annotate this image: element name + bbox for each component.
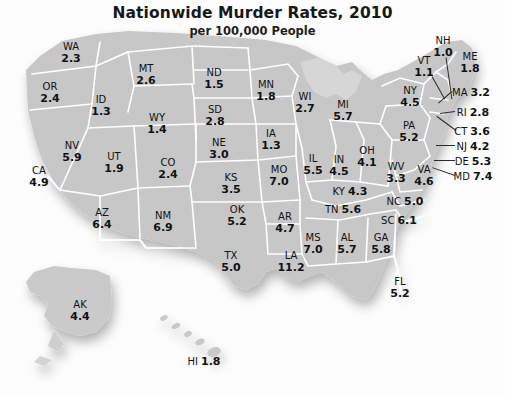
state-label-wy: WY1.4	[147, 112, 167, 135]
state-value-sd: 2.8	[205, 115, 225, 127]
state-label-tx: TX5.0	[221, 250, 241, 273]
state-abbr-sc: SC	[381, 215, 394, 226]
state-abbr-wi: WI	[295, 91, 315, 103]
state-value-mo: 7.0	[269, 175, 289, 187]
state-value-nv: 5.9	[62, 151, 82, 163]
state-abbr-in: IN	[329, 154, 349, 166]
state-abbr-id: ID	[91, 94, 111, 106]
state-abbr-ct: CT	[454, 126, 467, 137]
state-abbr-ky: KY	[333, 186, 345, 197]
state-abbr-wy: WY	[147, 112, 167, 124]
state-label-wa: WA2.3	[61, 41, 81, 64]
state-value-ks: 3.5	[221, 183, 241, 195]
state-value-wa: 2.3	[61, 52, 81, 64]
state-value-or: 2.4	[40, 92, 60, 104]
state-value-hi: 1.8	[201, 355, 221, 368]
state-value-tx: 5.0	[221, 261, 241, 273]
state-abbr-vt: VT	[414, 55, 434, 67]
state-abbr-oh: OH	[357, 145, 377, 157]
state-value-ny: 4.5	[400, 96, 420, 108]
state-label-ak: AK4.4	[70, 299, 90, 322]
state-value-ri: 2.8	[470, 106, 490, 119]
aleutian-islands	[34, 356, 52, 366]
state-abbr-ms: MS	[303, 232, 323, 244]
state-value-ok: 5.2	[227, 215, 247, 227]
title-block: Nationwide Murder Rates, 2010 per 100,00…	[0, 4, 505, 39]
state-abbr-or: OR	[40, 81, 60, 93]
state-value-mn: 1.8	[256, 90, 276, 102]
state-value-az: 6.4	[92, 218, 112, 230]
state-abbr-ia: IA	[261, 128, 281, 140]
state-value-nm: 6.9	[153, 221, 173, 233]
state-value-la: 11.2	[277, 261, 304, 273]
state-abbr-ut: UT	[104, 151, 124, 163]
state-value-pa: 5.2	[399, 131, 419, 143]
state-value-nd: 1.5	[204, 78, 224, 90]
state-abbr-me: ME	[460, 51, 480, 63]
state-value-ne: 3.0	[209, 148, 229, 160]
state-abbr-mo: MO	[269, 164, 289, 176]
state-abbr-ak: AK	[70, 299, 90, 311]
state-value-wy: 1.4	[147, 123, 167, 135]
state-label-ct: CT3.6	[454, 123, 490, 138]
state-label-ny: NY4.5	[400, 85, 420, 108]
state-label-ga: GA5.8	[371, 232, 391, 255]
state-abbr-ma: MA	[452, 87, 467, 98]
state-abbr-de: DE	[455, 156, 469, 167]
state-label-il: IL5.5	[303, 153, 323, 176]
state-label-ar: AR4.7	[275, 211, 295, 234]
state-value-de: 5.3	[472, 155, 492, 168]
state-label-sd: SD2.8	[205, 104, 225, 127]
state-label-id: ID1.3	[91, 94, 111, 117]
page-subtitle: per 100,000 People	[0, 24, 505, 39]
state-abbr-mi: MI	[333, 99, 353, 111]
state-abbr-ok: OK	[227, 204, 247, 216]
state-label-nc: NC5.0	[387, 193, 424, 208]
state-abbr-fl: FL	[390, 276, 410, 288]
leader-line-nj	[436, 145, 455, 146]
state-abbr-va: VA	[414, 164, 434, 176]
state-label-hi: HI1.8	[188, 353, 221, 368]
state-label-tn: TN5.6	[325, 201, 361, 216]
state-label-al: AL5.7	[337, 232, 357, 255]
state-label-wi: WI2.7	[295, 91, 315, 114]
state-label-la: LA11.2	[277, 250, 304, 273]
state-label-de: DE5.3	[455, 153, 492, 168]
state-abbr-nc: NC	[387, 196, 401, 207]
state-abbr-nd: ND	[204, 67, 224, 79]
state-label-or: OR2.4	[40, 81, 60, 104]
state-value-nh: 1.0	[433, 46, 453, 58]
state-label-mt: MT2.6	[136, 63, 156, 86]
state-value-ga: 5.8	[371, 243, 391, 255]
state-value-fl: 5.2	[390, 287, 410, 299]
state-value-wi: 2.7	[295, 102, 315, 114]
state-value-mt: 2.6	[136, 74, 156, 86]
state-value-ma: 3.2	[470, 86, 490, 99]
alaska-landmass	[26, 266, 112, 336]
state-label-nm: NM6.9	[153, 210, 173, 233]
state-value-in: 4.5	[329, 165, 349, 177]
state-label-ma: MA3.2	[452, 84, 490, 99]
state-abbr-nm: NM	[153, 210, 173, 222]
state-label-mn: MN1.8	[256, 79, 276, 102]
state-abbr-ri: RI	[457, 107, 467, 118]
state-label-ne: NE3.0	[209, 137, 229, 160]
state-label-md: MD7.4	[454, 168, 493, 183]
state-value-ia: 1.3	[261, 139, 281, 151]
state-value-ut: 1.9	[104, 162, 124, 174]
state-label-pa: PA5.2	[399, 120, 419, 143]
state-value-tn: 5.6	[342, 203, 362, 216]
state-abbr-tn: TN	[325, 204, 339, 215]
state-value-ar: 4.7	[275, 222, 295, 234]
state-label-nd: ND1.5	[204, 67, 224, 90]
state-abbr-wa: WA	[61, 41, 81, 53]
state-abbr-nv: NV	[62, 140, 82, 152]
state-value-wv: 3.3	[386, 172, 406, 184]
state-abbr-ks: KS	[221, 172, 241, 184]
state-value-md: 7.4	[473, 170, 493, 183]
state-abbr-al: AL	[337, 232, 357, 244]
state-label-mi: MI5.7	[333, 99, 353, 122]
state-value-il: 5.5	[303, 164, 323, 176]
state-abbr-ne: NE	[209, 137, 229, 149]
state-label-ca: CA4.9	[29, 165, 49, 188]
